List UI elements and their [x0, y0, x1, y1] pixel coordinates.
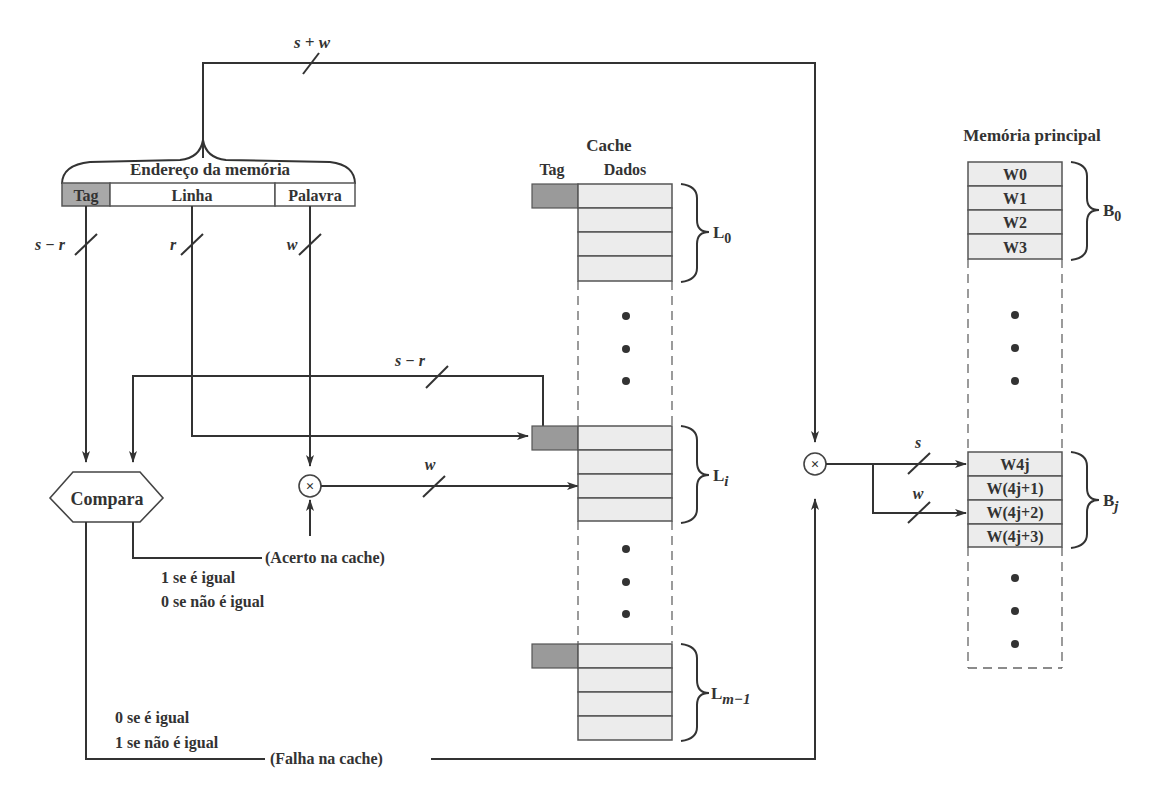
- main-memory: Memória principal W0 W1 W2 W3 B0 W4j: [963, 126, 1121, 668]
- word-w4j: W4j: [1000, 456, 1029, 474]
- word-w4j-plus-1: W(4j+1): [986, 480, 1043, 498]
- main-memory-title: Memória principal: [963, 126, 1101, 145]
- hit-path: (Acerto na cache) 1 se é igual 0 se não …: [133, 500, 385, 611]
- cache-line-0: L0: [532, 184, 731, 282]
- memory-block-0: W0 W1 W2 W3 B0: [968, 162, 1121, 260]
- memory-address: Endereço da memória Tag Linha Palavra: [62, 160, 355, 206]
- word-w3: W3: [1003, 239, 1027, 256]
- field-word-label: Palavra: [288, 187, 341, 204]
- cache-line-0-label: L0: [713, 223, 731, 246]
- address-title: Endereço da memória: [130, 160, 291, 179]
- word-w1: W1: [1003, 190, 1027, 207]
- hit-rule-1: 1 se é igual: [161, 569, 236, 587]
- word-w0: W0: [1003, 166, 1027, 183]
- tag-path: s − r: [34, 206, 97, 462]
- field-tag-label: Tag: [73, 187, 98, 205]
- hit-rule-2: 0 se não é igual: [161, 593, 265, 611]
- cache-tag-path: s − r: [133, 352, 543, 462]
- cache-line-m-1: Lm−1: [532, 644, 751, 741]
- cache-word-bits-label: w: [425, 456, 436, 473]
- word-w4j-plus-2: W(4j+2): [986, 504, 1043, 522]
- cache-line-m-1-label: Lm−1: [711, 684, 751, 707]
- block-0-label: B0: [1103, 201, 1121, 224]
- bus-width-label: s + w: [293, 33, 331, 52]
- word-path: w: [287, 206, 321, 466]
- tag-bits-label: s − r: [34, 236, 66, 253]
- mux-cache-icon: ×: [306, 478, 315, 494]
- miss-label: (Falha na cache): [270, 750, 383, 768]
- memory-w-bits-label: w: [913, 485, 924, 502]
- cache-title: Cache: [586, 136, 632, 155]
- miss-path: (Falha na cache) 0 se é igual 1 se não é…: [86, 499, 815, 768]
- miss-rule-2: 1 se não é igual: [115, 734, 219, 752]
- cache-line-i: Li: [532, 426, 729, 523]
- hit-label: (Acerto na cache): [265, 549, 385, 567]
- miss-rule-1: 0 se é igual: [115, 709, 190, 727]
- line-bits-label: r: [170, 236, 177, 253]
- memory-s-bits-label: s: [914, 434, 921, 451]
- field-line-label: Linha: [172, 187, 213, 204]
- word-w2: W2: [1003, 214, 1027, 231]
- compare-label: Compara: [71, 489, 144, 509]
- line-path: r: [170, 206, 528, 436]
- cache-line-i-label: Li: [713, 466, 729, 489]
- cache: Cache Tag Dados L0 Li: [532, 136, 751, 741]
- mux-cache: × w: [299, 456, 578, 497]
- block-j-label: Bj: [1103, 491, 1119, 514]
- direct-mapped-cache-diagram: s + w Endereço da memória Tag Linha Pala…: [0, 0, 1173, 798]
- word-bits-label: w: [287, 236, 298, 253]
- cache-tag-bits-label: s − r: [394, 352, 426, 369]
- word-w4j-plus-3: W(4j+3): [986, 528, 1043, 546]
- mux-memory: × s w: [804, 434, 966, 523]
- mux-memory-icon: ×: [811, 456, 820, 472]
- cache-col-tag: Tag: [539, 161, 564, 179]
- memory-block-j: W4j W(4j+1) W(4j+2) W(4j+3) Bj: [968, 452, 1119, 548]
- compare-block: Compara: [50, 472, 163, 522]
- cache-col-data: Dados: [604, 161, 647, 178]
